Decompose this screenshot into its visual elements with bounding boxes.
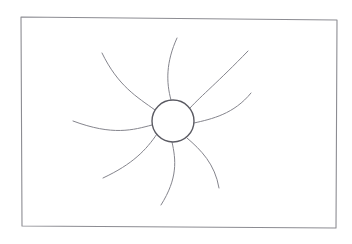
drawing-canvas: [0, 0, 352, 244]
center-circle: [152, 100, 194, 142]
sketch-artwork: [0, 0, 352, 244]
